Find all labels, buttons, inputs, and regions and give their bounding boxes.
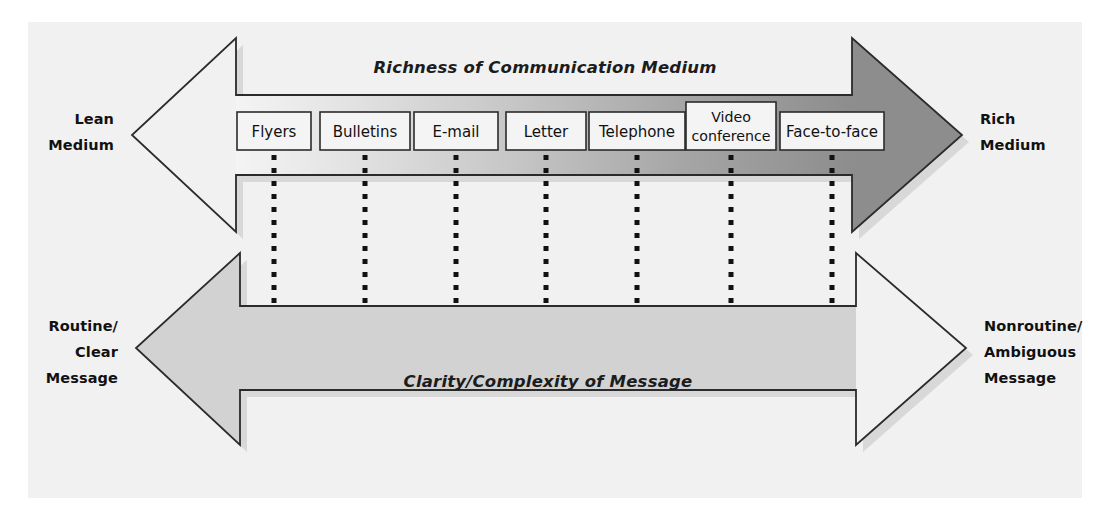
media-box-flyers[interactable]: Flyers — [237, 112, 311, 150]
nonroutine-ambiguous-message-line-3: Message — [984, 370, 1056, 386]
nonroutine-ambiguous-message-line-1: Nonroutine/ — [984, 318, 1083, 334]
media-box-face-to-face-label: Face-to-face — [786, 123, 878, 141]
richness-of-communication-medium-figure: Richness of Communication Medium Lean Me… — [0, 0, 1101, 523]
rich-medium-label: Rich Medium — [980, 111, 1046, 153]
media-box-bulletins[interactable]: Bulletins — [320, 112, 410, 150]
media-box-video-conference-label-line-1: Video — [711, 109, 751, 125]
media-box-face-to-face[interactable]: Face-to-face — [780, 112, 884, 150]
lean-medium-label: Lean Medium — [48, 111, 114, 153]
nonroutine-ambiguous-message-label: Nonroutine/ Ambiguous Message — [984, 318, 1083, 386]
media-box-letter-label: Letter — [524, 123, 569, 141]
media-box-flyers-label: Flyers — [252, 123, 297, 141]
rich-medium-label-line-2: Medium — [980, 137, 1046, 153]
top-arrow-tail-chevron-fill — [132, 38, 236, 232]
media-box-e-mail-label: E-mail — [432, 123, 479, 141]
routine-clear-message-line-1: Routine/ — [48, 318, 118, 334]
media-box-bulletins-label: Bulletins — [333, 123, 398, 141]
top-arrow-title: Richness of Communication Medium — [373, 58, 716, 77]
lean-medium-label-line-2: Medium — [48, 137, 114, 153]
media-box-video-conference-label-line-2: conference — [692, 128, 771, 144]
media-box-telephone-label: Telephone — [598, 123, 675, 141]
rich-medium-label-line-1: Rich — [980, 111, 1015, 127]
lean-medium-label-line-1: Lean — [74, 111, 114, 127]
media-box-video-conference[interactable]: Video conference — [686, 102, 776, 150]
media-box-e-mail[interactable]: E-mail — [414, 112, 498, 150]
bottom-arrow-group: Clarity/Complexity of Message Routine/ C… — [46, 253, 1083, 452]
media-box-letter[interactable]: Letter — [506, 112, 586, 150]
bottom-arrow-title: Clarity/Complexity of Message — [404, 372, 693, 391]
media-box-telephone[interactable]: Telephone — [589, 112, 685, 150]
routine-clear-message-line-3: Message — [46, 370, 118, 386]
bottom-arrow-tail-chevron — [856, 253, 966, 445]
diagram-canvas: Richness of Communication Medium Lean Me… — [0, 0, 1101, 523]
routine-clear-message-label: Routine/ Clear Message — [46, 318, 119, 386]
nonroutine-ambiguous-message-line-2: Ambiguous — [984, 344, 1076, 360]
routine-clear-message-line-2: Clear — [75, 344, 119, 360]
